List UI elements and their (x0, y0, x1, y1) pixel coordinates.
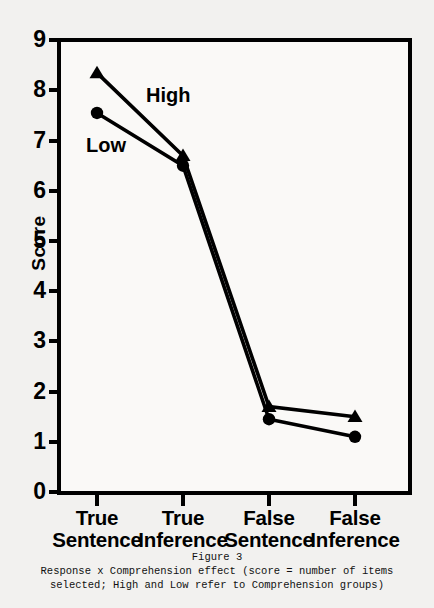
data-point-low-0 (91, 107, 103, 119)
figure-caption: Figure 3 Response x Comprehension effect… (0, 550, 434, 593)
data-point-low-2 (263, 413, 275, 425)
data-point-high-0 (90, 66, 105, 79)
figure-3: Score 0123456789 TrueSentenceTrueInferen… (0, 0, 434, 608)
caption-title: Figure 3 (0, 550, 434, 564)
data-point-low-1 (177, 160, 189, 172)
caption-line-2: selected; High and Low refer to Comprehe… (0, 578, 434, 592)
chart-data-layer (0, 0, 434, 608)
series-line-low (97, 113, 355, 437)
series-line-high (97, 73, 355, 417)
data-point-low-3 (349, 431, 361, 443)
caption-line-1: Response x Comprehension effect (score =… (0, 564, 434, 578)
